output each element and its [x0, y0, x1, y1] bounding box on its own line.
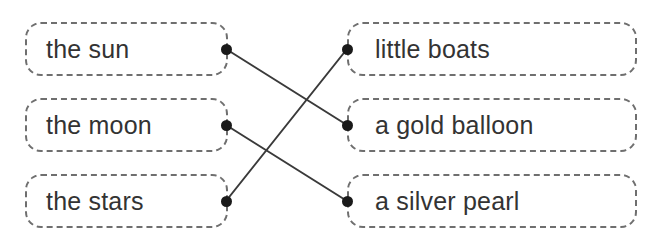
- left-option-1[interactable]: the sun: [25, 22, 228, 76]
- right-option-1[interactable]: little boats: [347, 22, 637, 76]
- connector-line[interactable]: [226, 49, 347, 201]
- left-anchor-dot-3[interactable]: [221, 196, 232, 207]
- right-option-1-label: little boats: [349, 37, 490, 62]
- right-option-3[interactable]: a silver pearl: [347, 174, 637, 228]
- right-anchor-dot-3[interactable]: [342, 196, 353, 207]
- connector-line[interactable]: [226, 125, 347, 201]
- left-option-2-label: the moon: [27, 113, 152, 138]
- right-option-2[interactable]: a gold balloon: [347, 98, 637, 152]
- left-anchor-dot-2[interactable]: [221, 120, 232, 131]
- right-option-2-label: a gold balloon: [349, 113, 534, 138]
- right-option-3-label: a silver pearl: [349, 189, 520, 214]
- right-anchor-dot-2[interactable]: [342, 120, 353, 131]
- left-option-1-label: the sun: [27, 37, 129, 62]
- left-option-3-label: the stars: [27, 189, 144, 214]
- left-option-3[interactable]: the stars: [25, 174, 228, 228]
- connector-line[interactable]: [226, 49, 347, 125]
- connector-lines: [226, 49, 347, 201]
- left-anchor-dot-1[interactable]: [221, 44, 232, 55]
- matching-exercise: the sun the moon the stars little boats …: [0, 0, 651, 239]
- right-anchor-dot-1[interactable]: [342, 44, 353, 55]
- left-option-2[interactable]: the moon: [25, 98, 228, 152]
